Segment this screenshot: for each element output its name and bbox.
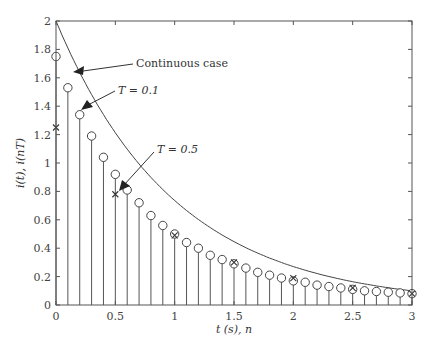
svg-text:T = 0.1: T = 0.1 (118, 84, 159, 97)
y-tick-label: 1.4 (34, 100, 52, 113)
svg-text:T = 0.5: T = 0.5 (157, 143, 198, 156)
sample-marker-t01 (348, 285, 356, 293)
sample-marker-t01 (301, 278, 309, 286)
sample-marker-t01 (87, 132, 95, 140)
y-tick-label: 1.8 (34, 43, 52, 56)
x-tick-label: 0 (53, 310, 60, 323)
y-tick-label: 0.4 (34, 242, 52, 255)
sample-marker-t01 (135, 199, 143, 207)
x-tick-label: 2.5 (344, 310, 362, 323)
y-tick-label: 0 (44, 299, 51, 312)
x-tick-label: 2 (290, 310, 297, 323)
sample-marker-t01 (206, 251, 214, 259)
sample-marker-t01 (242, 264, 250, 272)
plot-area (52, 21, 416, 305)
y-tick-label: 0.8 (34, 185, 52, 198)
x-tick-label: 1 (171, 310, 178, 323)
x-tick-label: 0.5 (107, 310, 125, 323)
sample-marker-t01 (313, 281, 321, 289)
sample-marker-t01 (99, 153, 107, 161)
sample-marker-t01 (337, 284, 345, 292)
y-tick-label: 0.2 (34, 271, 52, 284)
sample-marker-t01 (325, 282, 333, 290)
continuous-curve (56, 21, 412, 291)
sample-marker-t01 (159, 221, 167, 229)
y-tick-label: 1.6 (34, 72, 52, 85)
sample-marker-t01 (170, 230, 178, 238)
annotation-t05: T = 0.5 (119, 143, 198, 191)
sample-marker-t01 (194, 244, 202, 252)
y-tick-label: 1.2 (34, 129, 52, 142)
x-tick-label: 3 (409, 310, 416, 323)
sample-marker-t01 (254, 268, 262, 276)
x-tick-label: 1.5 (225, 310, 243, 323)
sample-marker-t01 (182, 238, 190, 246)
arrow-icon (81, 100, 93, 110)
y-axis-label: i(t), i(nT) (14, 138, 27, 188)
sample-marker-t01 (277, 274, 285, 282)
sample-marker-t01 (111, 170, 119, 178)
sample-marker-t01 (76, 111, 84, 119)
sample-marker-t01 (147, 211, 155, 219)
sample-marker-t01 (360, 287, 368, 295)
chart: 00.511.522.5300.20.40.60.811.21.41.61.82… (0, 0, 435, 350)
y-tick-label: 1 (44, 157, 51, 170)
sample-marker-t01 (218, 255, 226, 263)
annotation-continuous: Continuous case (73, 57, 228, 75)
sample-marker-t01 (265, 271, 273, 279)
arrow-icon (73, 66, 84, 75)
sample-marker-t01 (230, 260, 238, 268)
svg-text:Continuous case: Continuous case (136, 57, 228, 70)
sample-marker-t01 (384, 288, 392, 296)
y-tick-label: 2 (44, 15, 51, 28)
y-tick-label: 0.6 (34, 214, 52, 227)
sample-marker-t01 (396, 289, 404, 297)
sample-marker-t01 (372, 287, 380, 295)
x-axis-label: t (s), n (216, 323, 252, 336)
sample-marker-t01 (64, 84, 72, 92)
